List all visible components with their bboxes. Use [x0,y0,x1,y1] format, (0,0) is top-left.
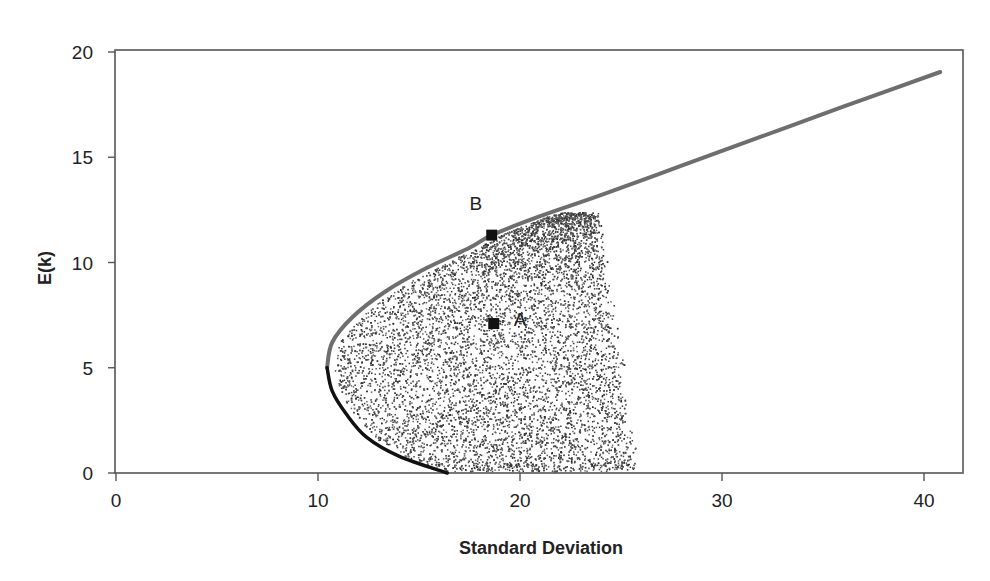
x-tick-label: 0 [111,490,122,511]
x-tick-label: 20 [509,490,530,511]
point-a-label: A [514,309,527,330]
y-tick-label: 10 [72,253,93,274]
point-a-marker [488,318,499,329]
x-tick-label: 40 [913,490,934,511]
x-tick-label: 10 [307,490,328,511]
y-axis-title: E(k) [35,251,55,285]
y-tick-label: 15 [72,147,93,168]
chart: 05101520 010203040 B A Standard Deviatio… [0,0,990,581]
x-tick-label: 30 [711,490,732,511]
point-b-marker [486,230,497,241]
chart-background [0,0,990,581]
x-axis-title: Standard Deviation [459,538,623,558]
y-tick-label: 5 [82,358,93,379]
point-b-label: B [469,193,482,214]
y-tick-label: 20 [72,42,93,63]
y-tick-label: 0 [82,463,93,484]
